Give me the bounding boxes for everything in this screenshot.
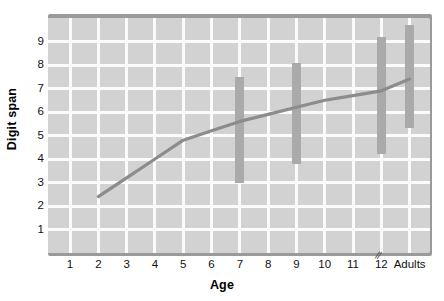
x-axis-tick-label: 7: [237, 259, 243, 271]
y-axis-tick-label: 3: [4, 177, 44, 189]
y-axis-tick-label: 9: [4, 36, 44, 48]
x-axis-tick-label: 9: [293, 259, 299, 271]
x-axis-tick-label: 2: [95, 259, 101, 271]
x-axis-tick-label: 1: [67, 259, 73, 271]
x-axis-tick-label: 6: [208, 259, 214, 271]
x-axis-tick-label: Adults: [394, 259, 426, 271]
y-axis-title: Digit span: [5, 79, 19, 159]
plot-area: [48, 18, 430, 253]
y-axis-tick-label: 8: [4, 59, 44, 71]
x-axis-tick-label: 4: [152, 259, 158, 271]
y-axis-tick-label: 1: [4, 224, 44, 236]
x-axis-tick-label: 5: [180, 259, 186, 271]
trend-line: [48, 18, 430, 253]
x-axis-tick-label: 8: [265, 259, 271, 271]
x-axis-tick-label: 11: [347, 259, 359, 271]
x-axis-ticks: 123456789101112Adults: [48, 259, 430, 275]
x-axis-title: Age: [0, 278, 444, 292]
digit-span-chart-figure: 123456789 123456789101112Adults // Digit…: [0, 0, 444, 301]
x-axis-tick-label: 3: [123, 259, 129, 271]
x-axis-tick-label: 10: [318, 259, 331, 271]
y-axis-tick-label: 2: [4, 200, 44, 212]
